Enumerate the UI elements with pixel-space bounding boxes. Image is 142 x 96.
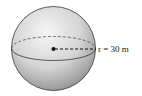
radius-label: r = 30 m xyxy=(98,44,129,54)
sphere-diagram: r = 30 m xyxy=(0,0,142,96)
center-point xyxy=(52,47,56,51)
